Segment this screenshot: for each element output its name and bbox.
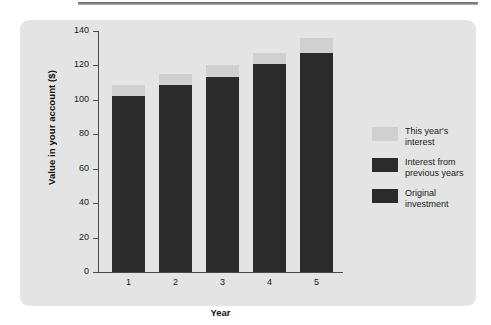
y-tick-label: 20 xyxy=(79,232,89,243)
legend-swatch xyxy=(372,127,398,141)
bar-segment[interactable] xyxy=(206,65,239,76)
x-tick-label: 4 xyxy=(253,277,286,287)
x-axis-title: Year xyxy=(98,307,343,318)
bar-segment[interactable] xyxy=(112,85,145,97)
bar-stack[interactable] xyxy=(206,65,239,272)
y-tick-label: 0 xyxy=(84,266,89,277)
y-tick-label: 60 xyxy=(79,163,89,174)
chart-legend: This year's interestInterest from previo… xyxy=(372,126,488,219)
legend-label: This year's interest xyxy=(405,126,448,148)
bar-segment[interactable] xyxy=(206,77,239,100)
bar-segment[interactable] xyxy=(159,85,192,100)
legend-label: Original investment xyxy=(405,188,449,210)
bar-segment[interactable] xyxy=(300,53,333,99)
bar-segment[interactable] xyxy=(300,100,333,272)
legend-swatch xyxy=(372,189,398,203)
chart-figure-panel: Value in your account ($) 02040608010012… xyxy=(20,20,476,306)
bar-segment[interactable] xyxy=(253,64,286,100)
x-tick-label: 3 xyxy=(206,277,239,287)
y-tick-mark xyxy=(93,238,99,239)
y-tick-label: 120 xyxy=(74,59,89,70)
x-tick-label: 2 xyxy=(159,277,192,287)
header-rule xyxy=(78,2,478,5)
legend-item[interactable]: Interest from previous years xyxy=(372,157,488,179)
legend-swatch xyxy=(372,158,398,172)
y-tick-mark xyxy=(93,100,99,101)
y-tick-label: 100 xyxy=(74,94,89,105)
bar-segment[interactable] xyxy=(253,100,286,272)
bar-segment[interactable] xyxy=(159,74,192,85)
y-tick-mark xyxy=(93,134,99,135)
y-tick-mark xyxy=(93,169,99,170)
x-axis-line xyxy=(98,272,343,273)
bar-segment[interactable] xyxy=(206,100,239,272)
y-axis-line xyxy=(98,31,99,272)
bar-segment[interactable] xyxy=(300,38,333,53)
y-tick-label: 40 xyxy=(79,197,89,208)
bar-segment[interactable] xyxy=(253,53,286,64)
y-tick-label: 140 xyxy=(74,25,89,36)
y-tick-label: 80 xyxy=(79,128,89,139)
x-tick-label: 1 xyxy=(112,277,145,287)
y-tick-mark xyxy=(93,203,99,204)
y-axis-title: Value in your account ($) xyxy=(46,70,60,185)
legend-label: Interest from previous years xyxy=(405,157,464,179)
y-tick-mark xyxy=(93,31,99,32)
x-tick-label: 5 xyxy=(300,277,333,287)
bar-segment[interactable] xyxy=(159,100,192,272)
y-tick-mark xyxy=(93,65,99,66)
bar-segment[interactable] xyxy=(112,100,145,272)
legend-item[interactable]: Original investment xyxy=(372,188,488,210)
y-tick-mark xyxy=(93,272,99,273)
legend-item[interactable]: This year's interest xyxy=(372,126,488,148)
bar-stack[interactable] xyxy=(253,53,286,272)
bar-stack[interactable] xyxy=(112,85,145,272)
bar-stack[interactable] xyxy=(300,38,333,272)
bar-stack[interactable] xyxy=(159,74,192,272)
plot-area: 020406080100120140 12345 xyxy=(98,31,343,272)
